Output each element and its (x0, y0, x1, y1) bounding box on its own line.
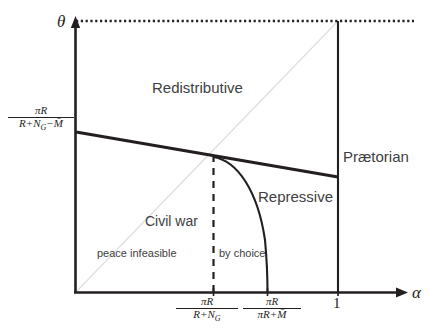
region-label-repressive: Repressive (258, 189, 333, 204)
region-label-peace-infeasible: peace infeasible (97, 248, 177, 259)
y-tick-denominator: R+NG−M̄ (8, 117, 74, 133)
y-tick-denominator-pre: R+N (19, 117, 40, 129)
region-label-civil-war: Civil war (145, 214, 198, 228)
x-axis-variable-label: α (412, 284, 421, 301)
x-tick-label-fraction-2: πR πR+M̄ (243, 296, 301, 320)
x-tick1-denominator-pre: R+N (193, 308, 214, 320)
x-tick1-denominator-subscript: G (215, 314, 221, 323)
x-tick1-denominator: R+NG (176, 308, 238, 324)
repression-frontier-curve (214, 157, 268, 292)
y-axis-arrowhead (71, 16, 80, 28)
y-axis-variable-label: θ (57, 13, 65, 30)
x-tick2-numerator: πR (243, 296, 301, 308)
region-label-redistributive: Redistributive (152, 80, 243, 95)
x-axis-arrowhead (396, 288, 408, 298)
region-label-praetorian: Prætorian (343, 149, 409, 164)
x-tick1-numerator: πR (176, 296, 238, 308)
phase-diagram-figure (0, 0, 430, 336)
y-tick-label-fraction: πR R+NG−M̄ (8, 105, 74, 132)
y-tick-numerator: πR (8, 105, 74, 117)
x-tick2-denominator: πR+M̄ (243, 308, 301, 321)
y-tick-denominator-post: −M̄ (46, 117, 63, 129)
region-label-by-choice: by choice (219, 248, 265, 259)
redistributive-boundary-line (76, 132, 338, 177)
x-tick-label-one: 1 (333, 296, 341, 311)
x-tick-label-fraction-1: πR R+NG (176, 296, 238, 323)
